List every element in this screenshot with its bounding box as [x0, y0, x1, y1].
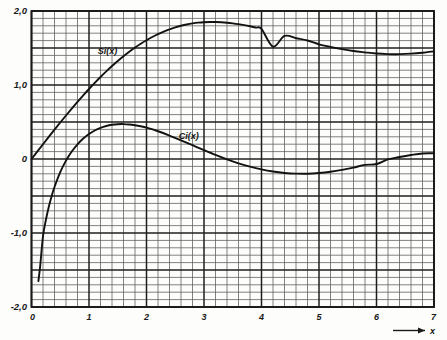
- x-tick-label: 4: [258, 312, 264, 322]
- curve-ci: [38, 124, 434, 281]
- y-axis-tick-labels: 2,01,00-1,0-2,0: [11, 5, 28, 312]
- y-tick-label: 2,0: [13, 5, 28, 16]
- x-tick-label: 3: [201, 312, 206, 322]
- x-axis-arrow-head: [418, 327, 425, 333]
- curve-si: [32, 22, 435, 159]
- x-axis-label: x: [429, 326, 436, 336]
- x-tick-label: 6: [374, 312, 380, 322]
- x-tick-label: 0: [30, 312, 35, 322]
- y-tick-label: -1,0: [11, 227, 28, 238]
- chart-canvas: 2,01,00-1,0-2,0 01234567 Si(x)Ci(x) x: [0, 0, 447, 340]
- x-tick-label: 7: [431, 312, 437, 322]
- y-tick-label: 1,0: [14, 79, 28, 90]
- x-tick-label: 1: [86, 312, 91, 322]
- x-tick-label: 5: [316, 312, 322, 322]
- curve-labels: Si(x)Ci(x): [98, 46, 199, 141]
- x-axis-arrow: x: [393, 326, 436, 336]
- chart-figure: 2,01,00-1,0-2,0 01234567 Si(x)Ci(x) x: [0, 0, 447, 340]
- y-tick-label: -2,0: [11, 301, 28, 312]
- curve-label-ci: Ci(x): [179, 131, 199, 141]
- x-axis-tick-labels: 01234567: [30, 312, 437, 322]
- x-tick-label: 2: [143, 312, 149, 322]
- curve-label-si: Si(x): [98, 46, 118, 56]
- y-tick-label: 0: [22, 153, 28, 164]
